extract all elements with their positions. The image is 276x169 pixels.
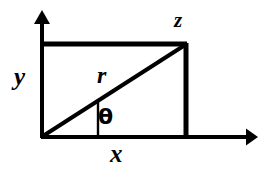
radius-label: r	[97, 63, 106, 87]
theta-label: θ	[98, 106, 113, 128]
coordinate-diagram: y z r θ x	[0, 0, 276, 169]
y-axis-label: y	[14, 64, 25, 89]
point-z-label: z	[174, 10, 182, 31]
x-axis-arrowhead-icon	[246, 129, 258, 146]
diagram-canvas	[0, 0, 276, 169]
y-axis-arrowhead-icon	[34, 10, 50, 24]
x-axis-label: x	[110, 141, 123, 166]
hypotenuse-line	[43, 45, 185, 136]
